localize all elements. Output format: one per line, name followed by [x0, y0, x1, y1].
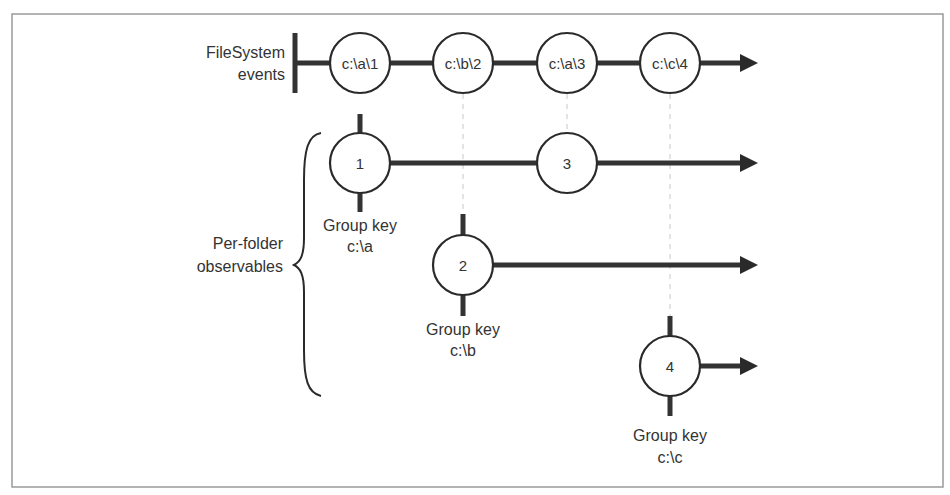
source-event-3: c:\a\3 [537, 33, 597, 93]
group-a-event-2-label: 3 [563, 155, 571, 172]
group-b-key: c:\b [450, 342, 476, 359]
source-label-line1: FileSystem [206, 44, 285, 61]
group-brace: Per-folder observables [197, 133, 321, 396]
group-a-key-caption: Group key [323, 217, 397, 234]
source-timeline: FileSystem events c:\a\1 c:\b\2 c:\a\3 c… [206, 33, 758, 93]
group-b-event-1: 2 [433, 235, 493, 295]
group-a-event-1-label: 1 [356, 155, 364, 172]
group-b-arrowhead-icon [740, 256, 758, 274]
source-event-2: c:\b\2 [433, 33, 493, 93]
group-label-line2: observables [197, 258, 283, 275]
source-event-2-label: c:\b\2 [445, 55, 482, 72]
group-timeline-a: 1 3 Group key c:\a [323, 114, 758, 255]
group-c-arrowhead-icon [740, 357, 758, 375]
source-event-4-label: c:\c\4 [652, 55, 688, 72]
source-label-line2: events [238, 66, 285, 83]
group-c-event-1: 4 [640, 336, 700, 396]
group-b-event-1-label: 2 [459, 257, 467, 274]
group-label-line1: Per-folder [213, 235, 284, 252]
group-a-key: c:\a [347, 238, 373, 255]
group-c-key: c:\c [658, 449, 683, 466]
guide-lines [463, 94, 670, 316]
groupby-marble-diagram: FileSystem events c:\a\1 c:\b\2 c:\a\3 c… [0, 0, 950, 495]
curly-brace-icon [294, 133, 321, 396]
source-event-3-label: c:\a\3 [549, 55, 586, 72]
group-timeline-c: 4 Group key c:\c [633, 316, 758, 466]
group-a-arrowhead-icon [740, 154, 758, 172]
source-event-1: c:\a\1 [330, 33, 390, 93]
group-b-key-caption: Group key [426, 321, 500, 338]
source-event-4: c:\c\4 [640, 33, 700, 93]
group-c-key-caption: Group key [633, 427, 707, 444]
group-a-event-2: 3 [537, 133, 597, 193]
group-timeline-b: 2 Group key c:\b [426, 214, 758, 359]
source-arrowhead-icon [740, 54, 758, 72]
source-event-1-label: c:\a\1 [342, 55, 379, 72]
group-a-event-1: 1 [330, 133, 390, 193]
group-c-event-1-label: 4 [666, 358, 674, 375]
